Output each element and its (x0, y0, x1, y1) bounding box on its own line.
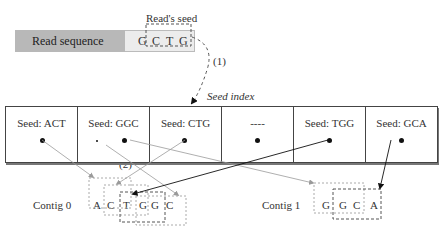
diagram-lines (0, 0, 443, 235)
reads-seed-box (146, 24, 191, 46)
